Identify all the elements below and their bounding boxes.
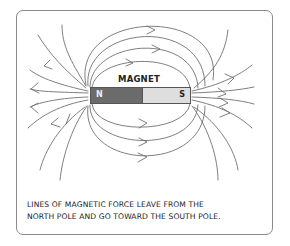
north-pole: N bbox=[91, 88, 143, 103]
magnet-label: MAGNET bbox=[118, 74, 178, 84]
caption-line-2: NORTH POLE AND GO TOWARD THE SOUTH POLE. bbox=[27, 211, 267, 223]
south-pole: S bbox=[143, 88, 190, 103]
north-pole-label: N bbox=[96, 90, 103, 99]
bar-magnet: N S bbox=[90, 87, 191, 104]
south-pole-label: S bbox=[179, 90, 185, 99]
caption-line-1: LINES OF MAGNETIC FORCE LEAVE FROM THE bbox=[27, 199, 267, 211]
caption: LINES OF MAGNETIC FORCE LEAVE FROM THE N… bbox=[27, 199, 267, 222]
